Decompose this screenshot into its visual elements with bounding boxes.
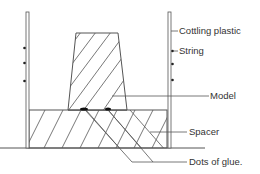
string-dot [171,79,174,82]
glue-dot [80,107,88,110]
string-dot [23,80,26,83]
label-cottling-plastic: Cottling plastic [179,25,241,36]
label-spacer: Spacer [189,126,219,137]
label-model: Model [210,90,236,101]
label-dots-of-glue: Dots of glue. [189,156,242,167]
leader-dots-of-glue [86,111,187,162]
string-dot [23,62,26,65]
glue-dot [105,107,111,110]
label-string: String [179,45,204,56]
model-casting-diagram: Cottling plastic String Model Spacer Dot… [0,0,260,174]
right-cottling-wall [168,12,174,148]
string-dot [171,63,174,66]
left-cottling-wall [23,12,29,148]
model [60,20,165,115]
string-dot [23,47,26,50]
